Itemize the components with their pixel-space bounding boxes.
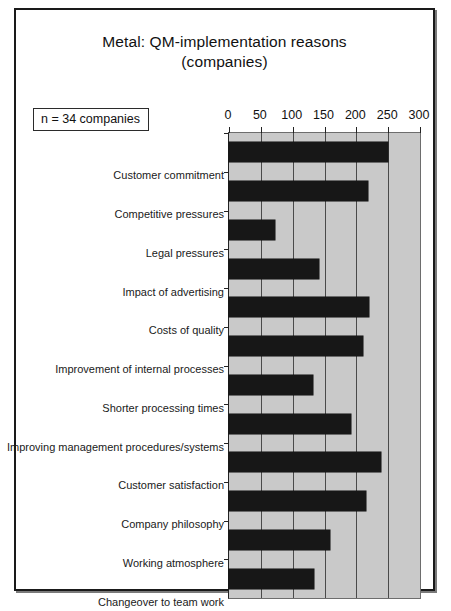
bar (229, 336, 363, 356)
bar (229, 414, 351, 434)
category-label: Legal pressures (146, 247, 224, 259)
y-tick-mark (224, 172, 229, 173)
category-label: Company philosophy (121, 518, 224, 530)
x-tick-mark-150 (325, 127, 326, 133)
y-tick-mark (224, 482, 229, 483)
chart-page-frame: Metal: QM-implementation reasons (compan… (14, 8, 435, 591)
x-axis-tick-labels: 050100150200250300 (228, 108, 419, 128)
gridline-250 (388, 133, 389, 598)
y-tick-mark (224, 366, 229, 367)
y-tick-mark (224, 404, 229, 405)
bar (229, 452, 381, 472)
x-tick-label-50: 50 (253, 108, 267, 122)
gridline-50 (261, 133, 262, 598)
bar (229, 181, 368, 201)
y-tick-mark (224, 288, 229, 289)
chart-title: Metal: QM-implementation reasons (compan… (16, 32, 433, 72)
category-label: Improving management procedures/systems (7, 441, 224, 453)
y-tick-mark (224, 327, 229, 328)
x-tick-mark-300 (420, 127, 421, 133)
chart-title-line-2: (companies) (16, 52, 433, 72)
category-label: Shorter processing times (102, 402, 224, 414)
y-tick-mark (224, 443, 229, 444)
category-label: Working atmosphere (123, 557, 224, 569)
gridline-150 (325, 133, 326, 598)
y-tick-mark (224, 133, 229, 134)
y-tick-mark (224, 211, 229, 212)
bar (229, 259, 319, 279)
category-label: Customer commitment (113, 169, 224, 181)
x-tick-mark-250 (388, 127, 389, 133)
category-label: Impact of advertising (123, 286, 225, 298)
x-tick-label-0: 0 (225, 108, 232, 122)
x-tick-label-150: 150 (313, 108, 334, 122)
category-label: Changeover to team work (98, 596, 224, 608)
category-label: Costs of quality (149, 324, 224, 336)
chart-plot-area (228, 132, 421, 599)
x-tick-label-250: 250 (377, 108, 398, 122)
bar (229, 569, 314, 589)
category-label: Improvement of internal processes (55, 363, 224, 375)
x-tick-label-100: 100 (281, 108, 302, 122)
bar (229, 297, 369, 317)
chart-plot-wrapper: 050100150200250300 (228, 108, 433, 598)
x-tick-label-200: 200 (345, 108, 366, 122)
bar (229, 530, 330, 550)
x-tick-mark-0 (229, 127, 230, 133)
bar (229, 375, 313, 395)
bar (229, 491, 366, 511)
category-label: Competitive pressures (115, 208, 224, 220)
x-tick-mark-50 (261, 127, 262, 133)
bar (229, 220, 275, 240)
y-axis-category-labels: Customer commitmentCompetitive pressures… (34, 132, 224, 597)
bar (229, 142, 388, 162)
category-label: Customer satisfaction (118, 479, 224, 491)
gridline-100 (293, 133, 294, 598)
x-tick-mark-200 (356, 127, 357, 133)
gridline-200 (356, 133, 357, 598)
sample-size-annotation: n = 34 companies (33, 108, 149, 131)
y-tick-mark (224, 521, 229, 522)
chart-title-line-1: Metal: QM-implementation reasons (102, 33, 346, 50)
y-tick-mark (224, 559, 229, 560)
x-tick-label-300: 300 (409, 108, 430, 122)
sample-size-text: n = 34 companies (41, 112, 140, 126)
y-tick-mark (224, 249, 229, 250)
x-tick-mark-100 (293, 127, 294, 133)
